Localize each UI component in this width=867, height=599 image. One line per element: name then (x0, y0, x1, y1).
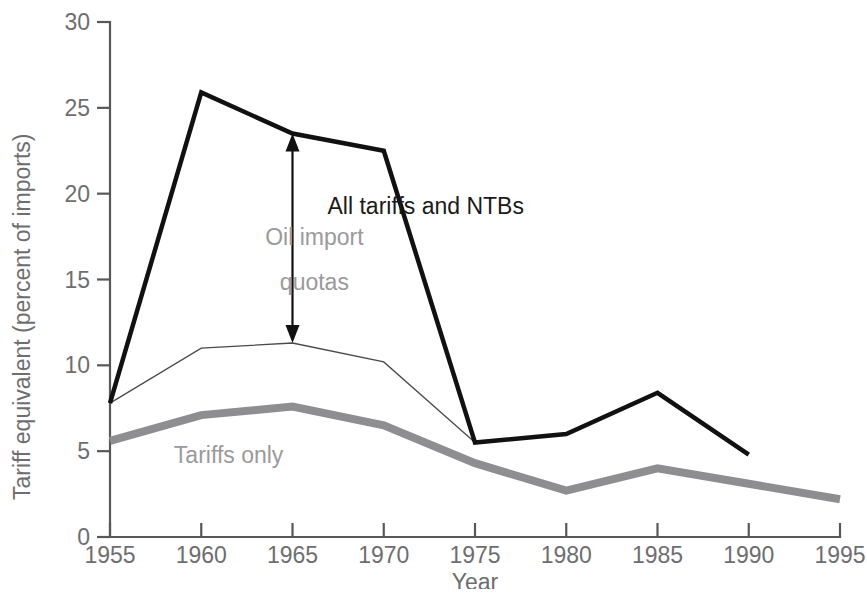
y-axis-title: Tariff equivalent (percent of imports) (9, 134, 35, 500)
y-axis-tick-labels: 051015202530 (64, 9, 90, 550)
x-axis-tick-labels: 195519601965197019751980198519901995 (84, 542, 865, 568)
y-axis-ticks (97, 22, 110, 537)
tariff-equivalent-line-chart: 051015202530 195519601965197019751980198… (0, 0, 867, 599)
x-tick-label-1980: 1980 (541, 542, 592, 568)
y-tick-label-10: 10 (64, 352, 90, 378)
x-tick-label-1995: 1995 (814, 542, 865, 568)
x-axis-ticks (110, 523, 840, 537)
annotation-tariffs-only: Tariffs only (174, 442, 284, 468)
y-tick-label-5: 5 (77, 438, 90, 464)
annotation-oil-import-quotas-line1: Oil import (265, 224, 364, 250)
y-tick-label-20: 20 (64, 181, 90, 207)
y-tick-label-25: 25 (64, 95, 90, 121)
y-tick-label-15: 15 (64, 267, 90, 293)
x-tick-label-1990: 1990 (723, 542, 774, 568)
x-tick-label-1965: 1965 (267, 542, 318, 568)
y-tick-label-30: 30 (64, 9, 90, 35)
series-group (110, 92, 840, 499)
annotation-all-tariffs-and-ntbs: All tariffs and NTBs (328, 193, 524, 219)
quota-arrow-head-down (286, 325, 300, 343)
x-tick-label-1975: 1975 (449, 542, 500, 568)
x-tick-label-1970: 1970 (358, 542, 409, 568)
series-line-all-tariffs-and-ntbs (110, 92, 749, 454)
chart-container: 051015202530 195519601965197019751980198… (0, 0, 867, 599)
annotation-oil-import-quotas-line2: quotas (280, 269, 349, 295)
page-edge-artifact (0, 589, 867, 599)
x-tick-label-1985: 1985 (632, 542, 683, 568)
x-tick-label-1955: 1955 (84, 542, 135, 568)
x-tick-label-1960: 1960 (176, 542, 227, 568)
